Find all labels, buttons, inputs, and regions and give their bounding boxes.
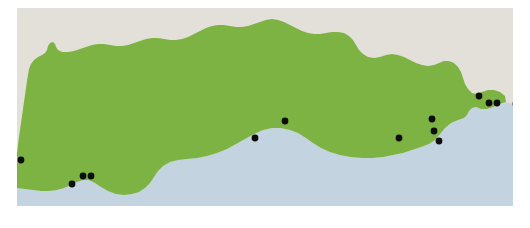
locality-dot[interactable] [476,93,483,100]
locality-dot[interactable] [88,173,95,180]
locality-dot[interactable] [436,138,443,145]
locality-dot[interactable] [431,128,438,135]
locality-dot[interactable] [396,135,403,142]
map-canvas[interactable] [17,8,513,206]
distribution-map-figure: Distribution map [0,0,530,228]
locality-dot[interactable] [18,157,25,164]
locality-dot[interactable] [494,100,501,107]
locality-dot[interactable] [282,118,289,125]
map-graphic[interactable] [17,8,513,206]
locality-dot[interactable] [69,181,76,188]
locality-dot[interactable] [252,135,259,142]
locality-dot[interactable] [429,116,436,123]
locality-dot[interactable] [486,100,493,107]
locality-dot[interactable] [80,173,87,180]
